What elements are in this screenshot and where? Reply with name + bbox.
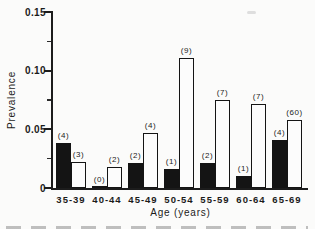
x-axis-title: Age (years) bbox=[53, 207, 308, 218]
bar-count-label: (4) bbox=[274, 129, 286, 137]
y-tick-label: 0.10 bbox=[25, 65, 46, 76]
open-bar bbox=[251, 104, 266, 188]
bar-count-label: (1) bbox=[166, 158, 178, 166]
y-minor-tick bbox=[47, 158, 51, 160]
bar-count-label: (3) bbox=[73, 151, 85, 159]
bar-count-label: (2) bbox=[202, 152, 214, 160]
open-bar bbox=[143, 133, 158, 188]
bar-count-label: (7) bbox=[217, 89, 229, 97]
x-category-label: 55-59 bbox=[200, 194, 229, 205]
bar-count-label: (1) bbox=[238, 165, 250, 173]
cropped-caption-sliver bbox=[6, 226, 308, 229]
bar-count-label: (0) bbox=[94, 176, 106, 184]
bar-count-label: (60) bbox=[286, 109, 303, 117]
filled-bar bbox=[128, 163, 143, 188]
bar-count-label: (2) bbox=[109, 156, 121, 164]
open-bar bbox=[215, 100, 230, 188]
plot-area: 00.050.100.1535-3940-4445-4950-5455-5960… bbox=[53, 12, 308, 188]
y-minor-tick bbox=[47, 99, 51, 101]
x-category-label: 65-69 bbox=[272, 194, 301, 205]
y-axis-title: Prevalence bbox=[6, 12, 18, 188]
x-category-label: 40-44 bbox=[92, 194, 121, 205]
open-bar bbox=[179, 58, 194, 188]
open-bar bbox=[287, 120, 302, 188]
bar-count-label: (2) bbox=[130, 152, 142, 160]
figure: Prevalence 00.050.100.1535-3940-4445-495… bbox=[0, 0, 315, 229]
x-category-label: 50-54 bbox=[164, 194, 193, 205]
bar-count-label: (9) bbox=[181, 47, 193, 55]
open-bar bbox=[107, 167, 122, 188]
bar-count-label: (4) bbox=[145, 122, 157, 130]
x-category-label: 35-39 bbox=[56, 194, 85, 205]
filled-bar bbox=[56, 143, 71, 188]
y-tick-label: 0.05 bbox=[25, 124, 46, 135]
bar-count-label: (7) bbox=[253, 93, 265, 101]
filled-bar bbox=[200, 163, 215, 188]
filled-bar bbox=[92, 186, 107, 188]
y-axis bbox=[51, 11, 53, 188]
y-minor-tick bbox=[47, 41, 51, 43]
y-tick-label: 0.15 bbox=[25, 7, 46, 18]
x-category-label: 45-49 bbox=[128, 194, 157, 205]
y-tick-label: 0 bbox=[40, 183, 46, 194]
filled-bar bbox=[164, 169, 179, 188]
x-category-label: 60-64 bbox=[236, 194, 265, 205]
open-bar bbox=[71, 162, 86, 188]
filled-bar bbox=[236, 176, 251, 188]
bar-count-label: (4) bbox=[58, 132, 70, 140]
x-axis bbox=[51, 188, 308, 190]
filled-bar bbox=[272, 140, 287, 188]
